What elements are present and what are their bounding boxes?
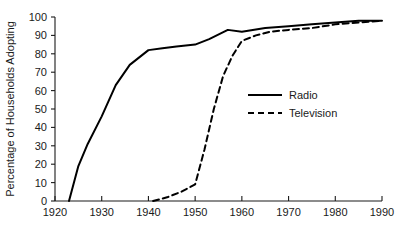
series-line-television xyxy=(153,21,382,201)
y-tick-label: 50 xyxy=(35,103,47,115)
x-tick-group: 19201930194019501960197019801990 xyxy=(43,196,394,218)
x-tick-label: 1970 xyxy=(276,206,300,218)
y-tick-label: 90 xyxy=(35,29,47,41)
y-tick-label: 80 xyxy=(35,48,47,60)
y-tick-label: 40 xyxy=(35,121,47,133)
y-tick-label: 60 xyxy=(35,85,47,97)
household-adoption-line-chart: Percentage of Households Adopting 010203… xyxy=(0,0,406,234)
x-axis: 19201930194019501960197019801990 xyxy=(43,196,394,218)
y-tick-label: 100 xyxy=(29,11,47,23)
y-axis: 0102030405060708090100 xyxy=(29,11,55,207)
y-tick-label: 30 xyxy=(35,140,47,152)
y-tick-group: 0102030405060708090100 xyxy=(29,11,55,207)
x-tick-label: 1920 xyxy=(43,206,67,218)
y-axis-title: Percentage of Households Adopting xyxy=(4,21,16,197)
y-axis-title-group: Percentage of Households Adopting xyxy=(4,21,16,197)
chart-legend: RadioTelevision xyxy=(248,89,337,119)
x-tick-label: 1960 xyxy=(230,206,254,218)
x-tick-label: 1950 xyxy=(183,206,207,218)
x-tick-label: 1940 xyxy=(136,206,160,218)
y-tick-label: 20 xyxy=(35,158,47,170)
legend-label-television: Television xyxy=(289,107,337,119)
legend-label-radio: Radio xyxy=(289,89,318,101)
y-tick-label: 70 xyxy=(35,66,47,78)
y-tick-label: 10 xyxy=(35,177,47,189)
x-tick-label: 1980 xyxy=(323,206,347,218)
x-tick-label: 1930 xyxy=(89,206,113,218)
chart-container: Percentage of Households Adopting 010203… xyxy=(0,0,406,234)
x-tick-label: 1990 xyxy=(370,206,394,218)
